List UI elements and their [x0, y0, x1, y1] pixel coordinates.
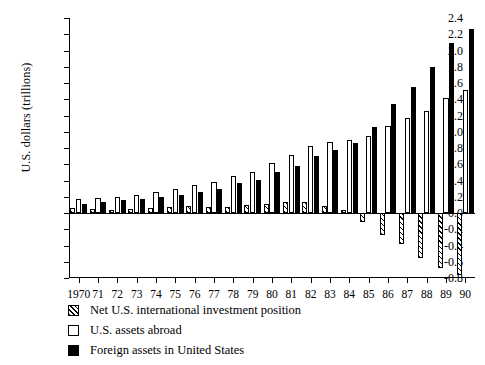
bar-foreign-71	[101, 202, 106, 213]
x-tick	[137, 278, 138, 283]
x-tick	[117, 278, 118, 283]
bar-foreign-90	[469, 29, 474, 213]
bar-net-88	[418, 213, 423, 258]
bar-abroad-74	[153, 192, 158, 213]
bar-foreign-84	[353, 143, 358, 213]
legend-label-foreign: Foreign assets in United States	[90, 343, 244, 358]
x-tick	[272, 278, 273, 283]
bar-foreign-79	[256, 180, 261, 213]
y-tick	[64, 181, 69, 182]
bar-foreign-86	[391, 104, 396, 213]
y-tick	[64, 278, 69, 279]
bar-net-80	[264, 204, 269, 213]
solid-swatch-icon	[68, 345, 79, 356]
y-tick	[64, 213, 69, 214]
bar-foreign-89	[449, 43, 454, 213]
y-axis-line	[69, 18, 70, 278]
y-tick	[64, 34, 69, 35]
bar-abroad-76	[192, 185, 197, 213]
bar-abroad-78	[231, 176, 236, 213]
bar-abroad-79	[250, 172, 255, 213]
zero-baseline	[69, 213, 475, 214]
y-tick	[64, 229, 69, 230]
x-tick	[253, 278, 254, 283]
bar-net-89	[438, 213, 443, 268]
y-tick	[64, 116, 69, 117]
x-tick	[175, 278, 176, 283]
x-tick	[98, 278, 99, 283]
legend-item-abroad: U.S. assets abroad	[68, 320, 301, 340]
bar-foreign-1970	[82, 204, 87, 213]
x-tick	[214, 278, 215, 283]
y-tick	[64, 148, 69, 149]
legend-item-foreign: Foreign assets in United States	[68, 340, 301, 360]
bar-foreign-82	[314, 156, 319, 213]
bar-net-75	[167, 207, 172, 214]
bar-net-79	[244, 205, 249, 213]
hatched-swatch-icon	[68, 305, 79, 316]
bar-net-81	[283, 202, 288, 213]
bar-foreign-85	[372, 127, 377, 213]
bar-net-78	[225, 207, 230, 214]
bar-foreign-78	[237, 183, 242, 213]
y-tick	[64, 246, 69, 247]
bar-net-82	[302, 202, 307, 213]
bar-abroad-75	[173, 189, 178, 213]
x-tick	[446, 278, 447, 283]
x-tick	[156, 278, 157, 283]
x-tick	[79, 278, 80, 283]
bar-abroad-86	[385, 126, 390, 213]
bar-foreign-75	[179, 195, 184, 213]
bar-foreign-72	[121, 200, 126, 213]
y-tick-label: 2.2	[448, 28, 463, 40]
x-tick	[195, 278, 196, 283]
bar-net-84	[341, 210, 346, 213]
x-tick	[388, 278, 389, 283]
bar-abroad-1970	[76, 199, 81, 213]
bar-abroad-72	[115, 197, 120, 213]
y-tick-label: 2.4	[448, 12, 463, 24]
chart-legend: Net U.S. international investment positi…	[68, 300, 301, 360]
bar-abroad-88	[424, 111, 429, 213]
bar-net-83	[322, 206, 327, 213]
y-tick	[64, 51, 69, 52]
y-tick	[64, 262, 69, 263]
bar-abroad-87	[405, 118, 410, 213]
bar-net-73	[128, 209, 133, 213]
x-tick	[349, 278, 350, 283]
bar-abroad-89	[443, 98, 448, 213]
bar-foreign-83	[333, 150, 338, 213]
y-tick	[64, 164, 69, 165]
x-tick	[291, 278, 292, 283]
bar-abroad-81	[289, 155, 294, 214]
chart-figure: U.S. dollars (trillions) 2.42.22.01.81.6…	[0, 0, 485, 365]
bar-net-87	[399, 213, 404, 244]
bar-abroad-73	[134, 195, 139, 213]
bar-net-77	[206, 207, 211, 214]
y-tick	[64, 83, 69, 84]
y-axis-title: U.S. dollars (trillions)	[19, 8, 34, 228]
bar-foreign-80	[275, 172, 280, 213]
bar-foreign-74	[159, 197, 164, 213]
bar-net-90	[457, 213, 462, 275]
bar-abroad-82	[308, 146, 313, 213]
y-tick	[64, 99, 69, 100]
plot-area: 2.42.22.01.81.61.41.21.00.80.60.40.20.0-…	[69, 18, 475, 278]
x-tick	[369, 278, 370, 283]
x-tick	[330, 278, 331, 283]
legend-label-abroad: U.S. assets abroad	[90, 323, 182, 338]
bar-abroad-83	[327, 142, 332, 213]
x-tick-label: 90	[445, 289, 485, 301]
bar-net-72	[109, 210, 114, 213]
x-tick	[311, 278, 312, 283]
bar-net-85	[360, 213, 365, 222]
bar-foreign-77	[217, 189, 222, 213]
legend-label-net: Net U.S. international investment positi…	[90, 303, 301, 318]
bar-foreign-87	[411, 87, 416, 213]
bar-foreign-76	[198, 192, 203, 213]
x-tick	[427, 278, 428, 283]
bar-abroad-71	[95, 198, 100, 213]
x-tick	[407, 278, 408, 283]
bar-net-71	[90, 209, 95, 213]
x-tick	[465, 278, 466, 283]
